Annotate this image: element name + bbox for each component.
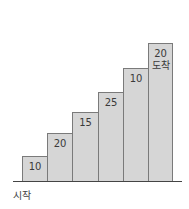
step-2: 20 <box>47 133 73 181</box>
start-label: 시작 <box>13 187 31 202</box>
step-1: 10 <box>22 156 48 181</box>
ground-line <box>13 181 182 182</box>
step-value: 20 <box>54 138 67 149</box>
step-6: 20 도착 <box>148 43 173 181</box>
staircase-diagram: 10 20 15 25 10 20 도착 시작 <box>0 0 189 209</box>
step-5: 10 <box>123 68 149 181</box>
step-value: 15 <box>79 117 92 128</box>
step-value: 25 <box>105 97 118 108</box>
finish-label: 도착 <box>149 60 172 72</box>
step-value: 10 <box>29 161 42 172</box>
step-value: 20 <box>149 48 172 60</box>
step-value: 10 <box>130 73 143 84</box>
step-4: 25 <box>98 92 124 181</box>
step-3: 15 <box>72 112 99 181</box>
